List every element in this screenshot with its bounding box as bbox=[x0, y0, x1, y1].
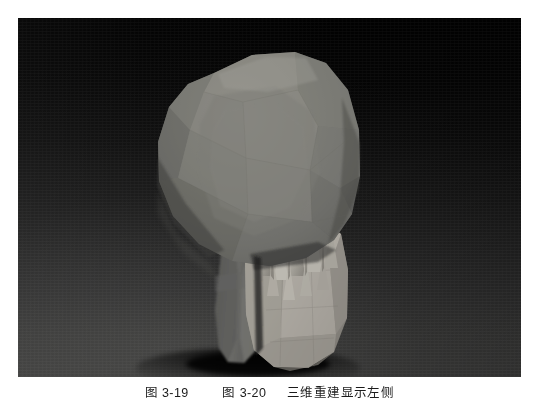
caption-segment-3: 三维重建显示左侧 bbox=[287, 386, 394, 400]
three-d-reconstruction-render bbox=[18, 18, 521, 377]
caption-segment-2: 图 3-20 bbox=[222, 386, 266, 400]
cranium-dome bbox=[157, 52, 360, 266]
caption-segment-1: 图 3-19 bbox=[145, 386, 189, 400]
figure-caption: 图 3-19 图 3-20 三维重建显示左侧 bbox=[0, 386, 539, 400]
render-viewport bbox=[18, 18, 521, 377]
figure-root: 图 3-19 图 3-20 三维重建显示左侧 bbox=[0, 0, 539, 400]
